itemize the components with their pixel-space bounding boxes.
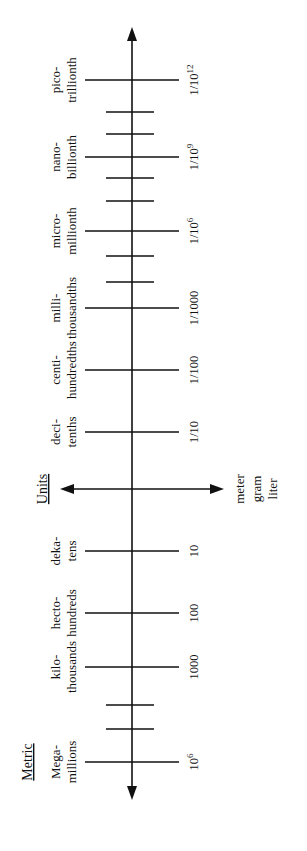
- prefix-label-group: micro-millionth: [48, 207, 79, 255]
- value-exponent: 6: [185, 217, 195, 222]
- metric-section-title: Metric: [20, 743, 35, 780]
- value-main: 10: [187, 545, 201, 558]
- prefix-name: nano-: [48, 142, 63, 172]
- prefix-value: 1/100: [187, 356, 201, 384]
- prefix-label-group: Mega-millions: [48, 741, 79, 784]
- prefix-label-group: deka-tens: [48, 537, 79, 566]
- prefix-name: kilo-: [48, 655, 63, 680]
- prefix-label-group: milli-thousandths: [48, 277, 79, 339]
- prefix-name: micro-: [48, 214, 63, 249]
- prefix-value: 100: [187, 604, 201, 623]
- prefix-meaning: hundredths: [64, 341, 79, 399]
- base-unit-gram: gram: [249, 476, 264, 503]
- prefix-meaning: millionth: [64, 207, 79, 255]
- value-main: 1/10: [187, 421, 201, 443]
- prefix-label-group: deci-tenths: [48, 416, 79, 447]
- prefix-name: Mega-: [48, 745, 63, 779]
- value-main: 10: [187, 758, 201, 771]
- value-main: 1/10: [187, 222, 201, 244]
- value-main: 1/100: [187, 356, 201, 384]
- value-main: 100: [187, 604, 201, 623]
- prefix-value: 10: [187, 545, 201, 558]
- prefix-meaning: tenths: [64, 416, 79, 447]
- value-exponent: 12: [185, 64, 195, 73]
- metric-prefix-diagram: pico-trillionthnano-billionthmicro-milli…: [0, 0, 307, 851]
- value-labels: 1/10121/1091/1061/10001/1001/10101001000…: [185, 64, 201, 770]
- prefix-value: 1/1012: [185, 64, 201, 95]
- prefix-name: hecto-: [48, 597, 63, 629]
- prefix-meaning: thousands: [64, 641, 79, 693]
- prefix-name: pico-: [48, 67, 63, 94]
- prefix-labels: pico-trillionthnano-billionthmicro-milli…: [48, 57, 79, 784]
- arrow-right-icon: [210, 484, 224, 494]
- value-main: 1/10: [187, 73, 201, 95]
- prefix-value: 1/109: [185, 143, 201, 170]
- prefix-label-group: kilo-thousands: [48, 641, 79, 693]
- value-main: 1/1000: [187, 291, 201, 326]
- value-main: 1000: [187, 655, 201, 680]
- prefix-label-group: pico-trillionth: [48, 57, 79, 103]
- prefix-name: centi-: [48, 355, 63, 385]
- minor-ticks: [106, 112, 154, 729]
- prefix-meaning: tens: [64, 541, 79, 562]
- prefix-value: 1/106: [185, 217, 201, 244]
- prefix-meaning: hundreds: [64, 589, 79, 637]
- value-exponent: 6: [185, 753, 195, 758]
- prefix-name: milli-: [48, 294, 63, 323]
- prefix-label-group: nano-billionth: [48, 134, 79, 179]
- arrow-down-icon: [127, 786, 137, 800]
- arrow-left-icon: [60, 484, 74, 494]
- value-exponent: 9: [185, 143, 195, 148]
- number-line-svg: pico-trillionthnano-billionthmicro-milli…: [0, 0, 307, 851]
- prefix-value: 1/10: [187, 421, 201, 443]
- arrow-up-icon: [127, 27, 137, 41]
- prefix-meaning: thousandths: [64, 277, 79, 339]
- value-main: 1/10: [187, 148, 201, 170]
- prefix-name: deka-: [48, 537, 63, 566]
- prefix-value: 1/1000: [187, 291, 201, 326]
- prefix-value: 1000: [187, 655, 201, 680]
- prefix-meaning: billionth: [64, 134, 79, 179]
- prefix-value: 106: [185, 753, 201, 771]
- base-unit-meter: meter: [232, 474, 247, 504]
- base-unit-liter: liter: [265, 478, 280, 500]
- prefix-meaning: millions: [64, 741, 79, 784]
- prefix-meaning: trillionth: [64, 57, 79, 103]
- prefix-label-group: hecto-hundreds: [48, 589, 79, 637]
- prefix-name: deci-: [48, 419, 63, 445]
- units-section-title: Units: [35, 474, 50, 504]
- prefix-label-group: centi-hundredths: [48, 341, 79, 399]
